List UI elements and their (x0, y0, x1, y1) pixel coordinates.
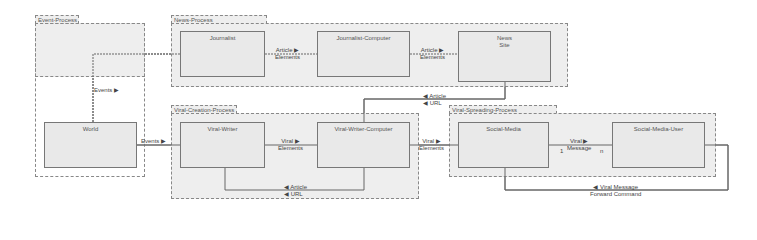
node-world[interactable]: World (44, 122, 137, 168)
node-news-site[interactable]: NewsSite (458, 31, 551, 82)
node-journalist-computer-label: Journalist-Computer (336, 35, 390, 41)
node-social-media[interactable]: Social-Media (458, 122, 549, 168)
edge-label-article-url-bottom: ◀ Article ◀ URL (284, 184, 307, 198)
edge-label-line: Elements (419, 145, 444, 152)
edge-label-line: Article ▶ (420, 47, 445, 54)
edge-label-events-right: Events ▶ (141, 138, 166, 145)
node-social-media-user-label: Social-Media-User (634, 126, 683, 132)
node-news-site-label-1: News (459, 35, 550, 42)
edge-label-article-url-top: ◀ Article ◀ URL (423, 93, 446, 107)
edge-label-line: Elements (278, 145, 303, 152)
edge-label-line: ◀ URL (423, 100, 446, 107)
node-journalist[interactable]: Journalist (180, 31, 265, 77)
edge-label-viral-elements-2: Viral ▶ Elements (419, 138, 444, 152)
node-viral-writer-computer[interactable]: Viral-Writer-Computer (317, 122, 410, 168)
edge-label-article-elements-1: Article ▶ Elements (275, 47, 300, 61)
node-news-site-label-2: Site (459, 42, 550, 49)
edge-label-line: Article ▶ (275, 47, 300, 54)
edge-label-line: ◀ Viral Message (590, 184, 641, 191)
edge-label-article-elements-2: Article ▶ Elements (420, 47, 445, 61)
edge-label-viral-message-back: ◀ Viral Message Forward Command (590, 184, 641, 198)
edge-label-line: ◀ Article (423, 93, 446, 100)
edge-label-events-up: Events ▶ (94, 87, 119, 94)
edge-label-viral-message: Viral ▶ Message (567, 138, 591, 152)
multiplicity-right: n (600, 148, 603, 155)
edge-label-viral-elements-1: Viral ▶ Elements (278, 138, 303, 152)
node-social-media-label: Social-Media (486, 126, 521, 132)
node-world-label: World (83, 126, 99, 132)
edge-label-line: Message (567, 145, 591, 152)
node-viral-writer-label: Viral-Writer (208, 126, 238, 132)
edge-label-line: Viral ▶ (278, 138, 303, 145)
edge-label-line: ◀ Article (284, 184, 307, 191)
node-journalist-computer[interactable]: Journalist-Computer (317, 31, 410, 77)
edge-label-line: Viral ▶ (419, 138, 444, 145)
edge-label-line: Viral ▶ (567, 138, 591, 145)
node-viral-writer-computer-label: Viral-Writer-Computer (334, 126, 392, 132)
edge-label-line: ◀ URL (284, 191, 307, 198)
edge-label-line: Elements (275, 54, 300, 61)
node-journalist-label: Journalist (210, 35, 236, 41)
node-social-media-user[interactable]: Social-Media-User (612, 122, 705, 168)
node-viral-writer[interactable]: Viral-Writer (180, 122, 265, 168)
edge-label-line: Elements (420, 54, 445, 61)
edge-label-line: Forward Command (590, 191, 641, 198)
multiplicity-left: 1 (560, 148, 563, 155)
